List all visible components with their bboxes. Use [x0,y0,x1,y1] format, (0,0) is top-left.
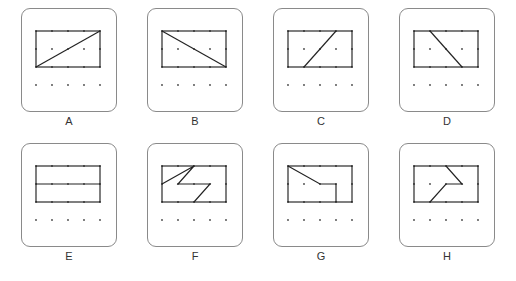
card-d[interactable] [399,8,495,112]
figure-h [400,144,496,248]
card-h[interactable] [399,143,495,247]
panel-f[interactable]: F [136,143,254,263]
panel-row-top: A B [6,8,510,143]
shape-line-f [162,166,210,202]
card-b[interactable] [147,8,243,112]
panel-row-bottom: E F [6,143,510,278]
shape-line-b [162,31,226,67]
panel-label-h: H [443,250,451,263]
panel-grid: A B [0,0,516,281]
worksheet: A B [0,0,516,281]
panel-label-g: G [317,250,326,263]
panel-label-d: D [443,115,451,128]
shape-line-a [36,31,100,67]
panel-b[interactable]: B [136,8,254,128]
shape-line-c [304,31,336,67]
card-e[interactable] [21,143,117,247]
panel-label-c: C [317,115,325,128]
dot-grid-f [161,165,227,221]
panel-label-a: A [65,115,72,128]
card-g[interactable] [273,143,369,247]
panel-a[interactable]: A [10,8,128,128]
figure-c [274,9,370,113]
panel-h[interactable]: H [388,143,506,263]
panel-label-b: B [191,115,198,128]
figure-f [148,144,244,248]
dot-grid-h [413,165,479,221]
panel-d[interactable]: D [388,8,506,128]
panel-g[interactable]: G [262,143,380,263]
shape-line-d [430,31,462,67]
panel-e[interactable]: E [10,143,128,263]
card-f[interactable] [147,143,243,247]
figure-e [22,144,118,248]
panel-c[interactable]: C [262,8,380,128]
shape-line-h [430,166,462,202]
figure-a [22,9,118,113]
shape-line-g [288,166,336,202]
panel-label-e: E [65,250,72,263]
dot-grid-e [35,165,101,221]
card-a[interactable] [21,8,117,112]
figure-b [148,9,244,113]
dot-grid-d [413,30,479,86]
dot-grid-g [287,165,353,221]
panel-label-f: F [192,250,199,263]
card-c[interactable] [273,8,369,112]
dot-grid-c [287,30,353,86]
figure-d [400,9,496,113]
dot-grid-b [161,30,227,86]
dot-grid-a [35,30,101,86]
figure-g [274,144,370,248]
